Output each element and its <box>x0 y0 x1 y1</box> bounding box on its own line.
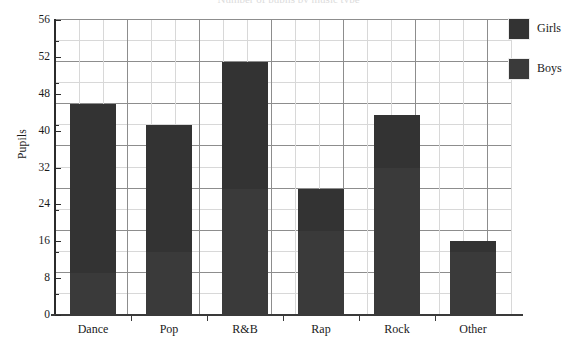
y-axis-minor-tick-mark <box>55 252 59 253</box>
legend: Girls Boys <box>508 16 577 96</box>
y-axis-minor-tick-mark <box>55 83 59 84</box>
bar-segment-girls[interactable] <box>450 241 496 252</box>
plot-area <box>55 20 511 315</box>
bar-stack[interactable] <box>70 104 116 315</box>
bar-segment-boys[interactable] <box>374 168 420 316</box>
y-axis-minor-tick-mark <box>55 41 59 42</box>
x-axis-line <box>51 314 523 316</box>
x-axis-tick-label: Other <box>428 322 518 336</box>
bar-stack[interactable] <box>222 62 268 315</box>
bar-stack[interactable] <box>298 189 344 315</box>
list-item[interactable]: Girls <box>508 16 577 56</box>
x-axis-tick-mark <box>283 314 284 321</box>
x-axis-tick-mark <box>131 314 132 321</box>
x-axis-tick-mark <box>435 314 436 321</box>
bars-container <box>55 20 511 315</box>
x-axis-tick-mark <box>359 314 360 321</box>
y-axis-tick-mark <box>55 57 61 58</box>
bar-segment-girls[interactable] <box>146 125 192 251</box>
bar-segment-boys[interactable] <box>450 252 496 315</box>
y-axis-minor-tick-mark <box>55 294 59 295</box>
y-axis-tick-mark <box>55 131 61 132</box>
y-axis-tick-mark <box>55 241 61 242</box>
legend-label-girls: Girls <box>537 21 561 35</box>
list-item[interactable]: Boys <box>508 56 577 96</box>
bar-segment-boys[interactable] <box>222 189 268 315</box>
bar-segment-boys[interactable] <box>146 252 192 315</box>
bar-segment-girls[interactable] <box>374 115 420 168</box>
bar-segment-girls[interactable] <box>70 104 116 273</box>
y-axis-tick-mark <box>55 315 61 316</box>
bar-chart: Number of pupils by music type Pupils 56… <box>0 0 577 351</box>
x-axis-tick-mark <box>207 314 208 321</box>
bar-segment-girls[interactable] <box>222 62 268 188</box>
y-axis-tick-mark <box>55 94 61 95</box>
y-axis-minor-tick-mark <box>55 125 59 126</box>
bar-segment-boys[interactable] <box>298 231 344 315</box>
chart-title: Number of pupils by music type <box>0 0 577 3</box>
y-axis-tick-marks <box>0 20 62 316</box>
bar-segment-girls[interactable] <box>298 189 344 231</box>
legend-swatch-boys <box>508 58 530 80</box>
y-axis-minor-tick-mark <box>55 210 59 211</box>
y-axis-tick-mark <box>55 20 61 21</box>
y-axis-tick-mark <box>55 278 61 279</box>
bar-stack[interactable] <box>374 115 420 315</box>
legend-label-boys: Boys <box>537 61 562 75</box>
y-axis-minor-tick-mark <box>55 168 59 169</box>
legend-swatch-girls <box>508 18 530 40</box>
bar-stack[interactable] <box>450 241 496 315</box>
bar-segment-boys[interactable] <box>70 273 116 315</box>
bar-stack[interactable] <box>146 125 192 315</box>
y-axis-tick-mark <box>55 204 61 205</box>
